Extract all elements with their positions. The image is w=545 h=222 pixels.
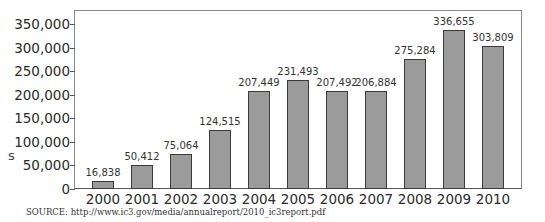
y-tick-label: 50,000 <box>23 158 70 172</box>
y-tick-mark <box>70 24 75 25</box>
bar-2002 <box>170 154 192 189</box>
bar-value-label: 207,449 <box>229 77 289 88</box>
y-tick-label: 0 <box>61 182 70 196</box>
source-note: SOURCE: http://www.ic3.gov/media/annualr… <box>26 207 325 217</box>
bar-2000 <box>92 181 114 189</box>
bar-2006 <box>326 91 348 189</box>
bar-value-label: 124,515 <box>190 116 250 127</box>
y-tick-mark <box>70 48 75 49</box>
y-tick-label: 350,000 <box>14 17 70 31</box>
y-tick-mark <box>70 165 75 166</box>
y-tick-label: 250,000 <box>14 64 70 78</box>
y-tick-mark <box>70 95 75 96</box>
bar-2007 <box>365 91 387 189</box>
bar-chart: 050,000100,000150,000200,000250,000300,0… <box>0 0 545 222</box>
bar-value-label: 75,064 <box>151 140 211 151</box>
bar-2008 <box>404 59 426 189</box>
bar-value-label: 336,655 <box>424 16 484 27</box>
bar-2004 <box>248 91 270 189</box>
x-tick-label: 2010 <box>468 191 518 207</box>
bar-value-label: 231,493 <box>268 66 328 77</box>
y-tick-label: 150,000 <box>14 111 70 125</box>
bar-value-label: 275,284 <box>385 45 445 56</box>
bar-value-label: 206,884 <box>346 77 406 88</box>
y-tick-mark <box>70 71 75 72</box>
bar-2001 <box>131 165 153 189</box>
bar-2005 <box>287 80 309 189</box>
y-tick-mark <box>70 189 75 190</box>
y-tick-label: 100,000 <box>14 135 70 149</box>
y-tick-label: 200,000 <box>14 88 70 102</box>
y-tick-mark <box>70 118 75 119</box>
bar-value-label: 50,412 <box>112 151 172 162</box>
bar-2003 <box>209 130 231 189</box>
y-tick-mark <box>70 142 75 143</box>
bar-2010 <box>482 46 504 189</box>
bar-value-label: 16,838 <box>73 167 133 178</box>
bar-2009 <box>443 30 465 189</box>
bar-value-label: 303,809 <box>463 32 523 43</box>
y-axis-label-fragment: s <box>8 148 15 163</box>
y-tick-label: 300,000 <box>14 41 70 55</box>
